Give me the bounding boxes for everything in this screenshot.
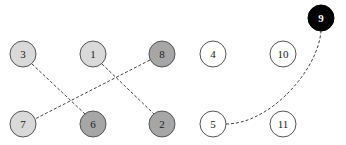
node-label: 4 — [210, 48, 216, 60]
node-label: 1 — [90, 48, 96, 60]
edge-8-7 — [35, 60, 150, 119]
node-9: 9 — [308, 5, 334, 31]
edge-1-2 — [102, 64, 154, 114]
node-label: 5 — [210, 118, 216, 130]
node-label: 7 — [20, 118, 26, 130]
node-1: 1 — [80, 41, 106, 67]
node-4: 4 — [200, 41, 226, 67]
node-10: 10 — [270, 41, 296, 67]
node-5: 5 — [200, 111, 226, 137]
node-label: 11 — [278, 118, 289, 130]
node-label: 8 — [159, 48, 165, 60]
node-label: 2 — [159, 118, 165, 130]
node-label: 3 — [20, 48, 26, 60]
node-11: 11 — [270, 111, 296, 137]
node-6: 6 — [80, 111, 106, 137]
node-label: 9 — [318, 12, 324, 24]
node-7: 7 — [10, 111, 36, 137]
nodes-layer: 3184109762511 — [10, 5, 334, 137]
node-label: 6 — [90, 118, 96, 130]
diagram-canvas: 3184109762511 — [0, 0, 346, 145]
node-8: 8 — [149, 41, 175, 67]
node-label: 10 — [278, 48, 290, 60]
node-2: 2 — [149, 111, 175, 137]
node-3: 3 — [10, 41, 36, 67]
